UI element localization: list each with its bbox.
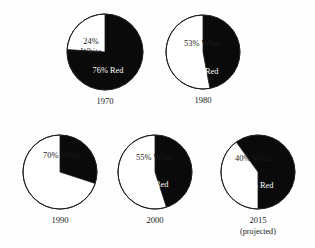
pie-label-red-2000: 45% Red (138, 180, 170, 189)
pie-year-label-2015: 2015 (249, 215, 266, 225)
pie-year-label-1990: 1990 (51, 215, 68, 225)
pie-year-label-1970: 1970 (96, 96, 113, 106)
pie-chart-1970: 24%White76% Red1970 (67, 14, 143, 106)
pie-label-red-1990: 30%Red (41, 175, 56, 194)
pie-chart-1990: 70% White30%Red1990 (23, 135, 97, 225)
pie-chart-2000: 55% White45% Red2000 (118, 135, 192, 225)
pie-label-red-1970: 76% Red (93, 66, 125, 75)
pie-label-white-1990: 70% White (43, 151, 81, 160)
pie-chart-figure: 24%White76% Red197053% White47% Red19807… (0, 0, 315, 248)
pie-label-red-2015: 60% Red (243, 181, 275, 190)
pie-label-white-2015: 40% White (235, 154, 273, 163)
pie-year-sublabel-2015: (projected) (240, 227, 276, 236)
pie-slice-white-1980 (166, 15, 210, 89)
pie-label-red-1980: 47% Red (188, 67, 220, 76)
pie-chart-1980: 53% White47% Red1980 (166, 15, 240, 105)
pie-year-label-2000: 2000 (146, 215, 163, 225)
pie-label-white-1980: 53% White (184, 39, 222, 48)
pie-label-white-1970: 24%White (81, 37, 102, 56)
pie-year-label-1980: 1980 (194, 95, 211, 105)
pie-chart-2015: 40% White60% Red2015(projected) (221, 135, 295, 236)
pie-label-white-2000: 55% White (136, 153, 174, 162)
pie-chart-svg: 24%White76% Red197053% White47% Red19807… (0, 0, 315, 248)
